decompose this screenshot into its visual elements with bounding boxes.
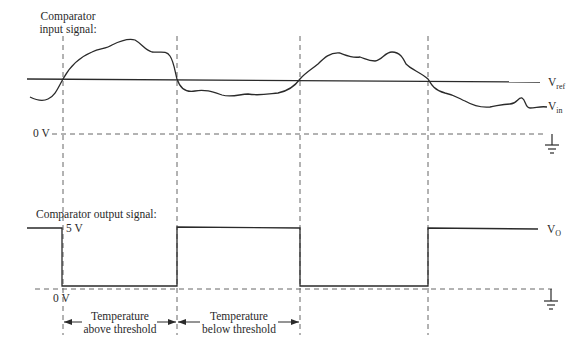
vref-line bbox=[27, 79, 540, 82]
interval-below-label: Temperature below threshold bbox=[199, 310, 279, 336]
input-signal-title: Comparator input signal: bbox=[36, 10, 100, 36]
ground-icon bbox=[545, 134, 559, 153]
vo-waveform bbox=[27, 227, 538, 286]
output-high-label: 5 V bbox=[66, 222, 83, 235]
comparator-diagram bbox=[0, 0, 576, 347]
output-zero-label: 0 V bbox=[53, 292, 70, 305]
vo-label: VO bbox=[547, 223, 561, 240]
vin-label: Vin bbox=[548, 100, 563, 117]
interval-above-label: Temperature above threshold bbox=[80, 310, 160, 336]
output-signal-title: Comparator output signal: bbox=[36, 208, 157, 221]
vin-waveform bbox=[30, 39, 547, 108]
ground-icon bbox=[544, 289, 558, 309]
input-zero-label: 0 V bbox=[33, 127, 50, 140]
vref-label: Vref bbox=[548, 76, 565, 93]
